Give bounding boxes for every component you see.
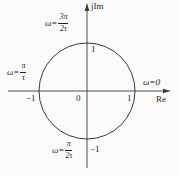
omega-annotation-bottom-fraction: π 2τ — [65, 140, 72, 160]
fraction-numerator: 3π — [58, 13, 68, 24]
z-plane-unit-circle-diagram: jIm Re 1 1 0 −1 −1 ω=0 ω= 3π 2τ ω= π τ ω… — [0, 0, 179, 176]
real-axis-label: Re — [156, 95, 166, 104]
omega-annotation-left-fraction: π τ — [20, 62, 26, 82]
real-axis-arrowhead-icon — [163, 89, 171, 94]
omega-annotation-bottom: ω= π 2τ — [52, 140, 72, 160]
tick-real-negative: −1 — [26, 94, 36, 103]
omega-annotation-top-fraction: 3π 2τ — [58, 13, 68, 33]
tick-imag-positive: 1 — [91, 45, 96, 54]
fraction-numerator: π — [65, 140, 72, 151]
fraction-denominator: τ — [20, 73, 26, 83]
fraction-numerator: π — [20, 62, 26, 73]
fraction-denominator: 2τ — [65, 151, 72, 161]
tick-imag-negative: −1 — [90, 145, 100, 154]
omega-annotation-bottom-prefix: ω= — [52, 146, 64, 155]
omega-annotation-left: ω= π τ — [7, 62, 26, 82]
omega-annotation-left-prefix: ω= — [7, 68, 19, 77]
fraction-denominator: 2τ — [58, 24, 68, 34]
omega-annotation-top: ω= 3π 2τ — [45, 13, 68, 33]
omega-annotation-top-prefix: ω= — [45, 19, 57, 28]
omega-annotation-right: ω=0 — [143, 78, 160, 87]
tick-origin: 0 — [76, 94, 81, 103]
imaginary-axis-arrowhead-icon — [85, 3, 90, 11]
imaginary-axis-label: jIm — [91, 2, 104, 11]
tick-real-positive: 1 — [127, 94, 132, 103]
